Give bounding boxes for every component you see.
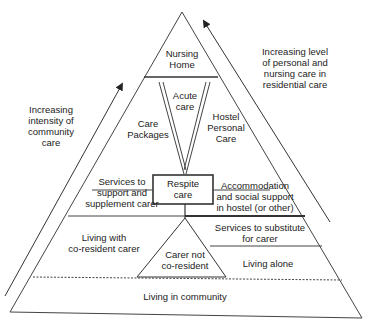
- label-carer-not-coresident: Carer not co-resident: [155, 249, 215, 271]
- label-care-packages: Care Packages: [124, 118, 172, 140]
- annotation-right: Increasing level of personal and nursing…: [251, 46, 339, 90]
- label-hostel-personal-care: Hostel Personal Care: [198, 111, 254, 144]
- label-acute-care: Acute care: [165, 90, 205, 112]
- label-living-alone: Living alone: [228, 258, 308, 269]
- label-services-support: Services to support and supplement carer: [82, 176, 162, 209]
- label-respite-care: Respite care: [153, 178, 213, 200]
- label-living-with-carer: Living with co-resident carer: [60, 232, 148, 254]
- label-accommodation: Accommodation and social support in host…: [207, 180, 303, 213]
- label-services-substitute: Services to substitute for carer: [200, 222, 320, 244]
- label-living-in-community: Living in community: [120, 291, 250, 302]
- annotation-left: Increasing intensity of community care: [20, 104, 82, 148]
- label-nursing-home: Nursing Home: [155, 48, 209, 70]
